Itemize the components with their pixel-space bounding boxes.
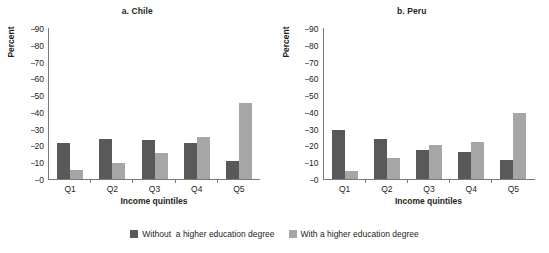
bar[interactable] xyxy=(374,139,387,179)
y-tick-label: 40 xyxy=(309,108,318,118)
y-tick-label: 10 xyxy=(35,158,44,168)
y-tick-label: 90 xyxy=(35,24,44,34)
x-tick-mark xyxy=(365,179,366,183)
y-tick-label: 20 xyxy=(35,141,44,151)
y-axis-ticks-chile: 0102030405060708090 xyxy=(22,28,44,180)
y-tick-label: 10 xyxy=(309,158,318,168)
y-tick-mark xyxy=(35,180,39,181)
bar[interactable] xyxy=(184,143,197,179)
bar[interactable] xyxy=(239,103,252,179)
bar[interactable] xyxy=(429,145,442,179)
y-tick-mark xyxy=(31,79,35,80)
bar-groups-peru xyxy=(324,28,535,179)
y-tick-mark xyxy=(305,96,309,97)
y-tick-label: 20 xyxy=(309,141,318,151)
x-tick-label: Q3 xyxy=(133,184,175,194)
chart-panel-chile: a. Chile Percent 0102030405060708090 Q1Q… xyxy=(0,0,275,225)
y-axis-label-peru: Percent xyxy=(281,10,293,74)
bar[interactable] xyxy=(345,171,358,179)
bar[interactable] xyxy=(471,142,484,179)
y-tick-mark xyxy=(310,180,314,181)
bar-group xyxy=(49,28,91,179)
y-tick-mark xyxy=(31,29,35,30)
bar[interactable] xyxy=(70,170,83,179)
bar-group xyxy=(176,28,218,179)
x-tick-label: Q3 xyxy=(408,184,450,194)
y-tick-mark xyxy=(305,163,309,164)
bar[interactable] xyxy=(112,163,125,179)
bar-group xyxy=(133,28,175,179)
bar-group xyxy=(492,28,534,179)
x-tick-label: Q4 xyxy=(176,184,218,194)
x-axis-line-peru xyxy=(323,179,535,180)
panel-row: a. Chile Percent 0102030405060708090 Q1Q… xyxy=(0,0,549,225)
y-tick-mark xyxy=(305,29,309,30)
y-tick-label: 60 xyxy=(35,74,44,84)
y-tick-label: 0 xyxy=(39,175,44,185)
bar[interactable] xyxy=(142,140,155,179)
x-axis-ticks-chile: Q1Q2Q3Q4Q5 xyxy=(49,184,260,194)
x-tick-label: Q1 xyxy=(324,184,366,194)
bar[interactable] xyxy=(416,150,429,179)
x-tick-label: Q1 xyxy=(49,184,91,194)
legend-swatch-icon xyxy=(289,230,297,238)
x-tick-mark xyxy=(491,179,492,183)
chart-legend: Without a higher education degreeWith a … xyxy=(0,229,549,239)
bar[interactable] xyxy=(197,137,210,179)
panel-title-chile: a. Chile xyxy=(0,6,275,16)
bar-group xyxy=(450,28,492,179)
y-tick-label: 70 xyxy=(35,58,44,68)
legend-item[interactable]: Without a higher education degree xyxy=(130,229,274,239)
x-tick-label: Q2 xyxy=(366,184,408,194)
bar[interactable] xyxy=(57,143,70,179)
y-tick-mark xyxy=(305,130,309,131)
x-tick-mark xyxy=(217,179,218,183)
legend-label: With a higher education degree xyxy=(301,229,419,239)
y-tick-label: 80 xyxy=(309,41,318,51)
legend-swatch-icon xyxy=(130,230,138,238)
x-tick-label: Q2 xyxy=(91,184,133,194)
bar-groups-chile xyxy=(49,28,260,179)
bar[interactable] xyxy=(99,139,112,179)
y-tick-mark xyxy=(31,163,35,164)
y-tick-label: 0 xyxy=(314,175,319,185)
x-axis-ticks-peru: Q1Q2Q3Q4Q5 xyxy=(324,184,535,194)
plot-area-peru: 0102030405060708090 Q1Q2Q3Q4Q5 xyxy=(323,28,535,180)
legend-item[interactable]: With a higher education degree xyxy=(289,229,419,239)
bar[interactable] xyxy=(387,158,400,179)
bar-group xyxy=(324,28,366,179)
y-tick-label: 70 xyxy=(309,58,318,68)
y-tick-mark xyxy=(31,146,35,147)
bar-group xyxy=(218,28,260,179)
y-tick-mark xyxy=(31,130,35,131)
x-axis-line-chile xyxy=(48,179,260,180)
y-tick-label: 80 xyxy=(35,41,44,51)
y-tick-mark xyxy=(305,79,309,80)
x-tick-label: Q4 xyxy=(450,184,492,194)
y-tick-label: 40 xyxy=(35,108,44,118)
bar[interactable] xyxy=(155,153,168,179)
x-tick-mark xyxy=(175,179,176,183)
bar[interactable] xyxy=(513,113,526,179)
bar[interactable] xyxy=(226,161,239,179)
x-axis-label-peru: Income quintiles xyxy=(323,196,535,206)
x-tick-mark xyxy=(132,179,133,183)
figure: a. Chile Percent 0102030405060708090 Q1Q… xyxy=(0,0,549,253)
bar[interactable] xyxy=(500,160,513,179)
legend-label: Without a higher education degree xyxy=(142,229,274,239)
y-tick-mark xyxy=(31,46,35,47)
y-tick-mark xyxy=(31,63,35,64)
bar-group xyxy=(408,28,450,179)
y-tick-mark xyxy=(305,63,309,64)
y-tick-label: 30 xyxy=(309,125,318,135)
y-tick-label: 50 xyxy=(35,91,44,101)
bar[interactable] xyxy=(332,130,345,179)
plot-area-chile: 0102030405060708090 Q1Q2Q3Q4Q5 xyxy=(48,28,260,180)
bar[interactable] xyxy=(458,152,471,179)
y-tick-mark xyxy=(305,113,309,114)
bar-group xyxy=(91,28,133,179)
y-axis-label-chile: Percent xyxy=(6,10,18,74)
x-tick-mark xyxy=(90,179,91,183)
y-axis-ticks-peru: 0102030405060708090 xyxy=(297,28,319,180)
y-tick-mark xyxy=(31,113,35,114)
